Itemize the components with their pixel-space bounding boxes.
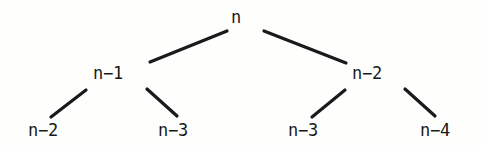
tree-leaf-n-minus-3-left: n−3: [158, 122, 188, 139]
edge-root-to-n-2: [264, 31, 346, 63]
edge-n-1-to-n-3: [147, 89, 177, 116]
tree-leaf-n-minus-3-right: n−3: [288, 122, 318, 139]
tree-leaf-n-minus-4-right: n−4: [420, 122, 450, 139]
tree-node-n-minus-2: n−2: [352, 65, 382, 82]
tree-node-root: n: [231, 9, 241, 26]
tree-node-n-minus-1: n−1: [93, 65, 123, 82]
tree-leaf-n-minus-2-left: n−2: [28, 122, 58, 139]
edge-n-1-to-n-2: [51, 90, 86, 117]
edge-n-2-to-n-4: [405, 89, 435, 116]
edge-n-2-to-n-3: [312, 90, 345, 117]
edge-root-to-n-1: [150, 31, 227, 62]
recursion-tree-figure: n n−1 n−2 n−2 n−3 n−3 n−4: [0, 0, 482, 146]
